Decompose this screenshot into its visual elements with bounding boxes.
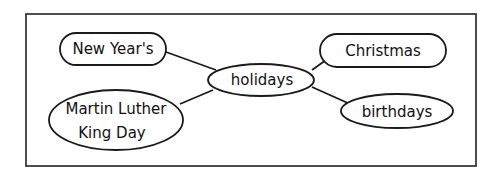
node-label: birthdays: [362, 103, 433, 121]
node-label: New Year's: [72, 40, 153, 58]
node-label: Christmas: [345, 42, 421, 60]
node-birthdays: birthdays: [341, 94, 453, 128]
node-new-years: New Year's: [60, 33, 166, 65]
node-holidays-center: holidays: [208, 64, 314, 96]
node-label-line2: King Day: [78, 124, 146, 142]
concept-web-diagram: New Year's Martin Luther King Day holida…: [0, 0, 501, 173]
node-label: holidays: [231, 71, 294, 89]
node-martin-luther-king-day: Martin Luther King Day: [49, 90, 183, 150]
node-label-line1: Martin Luther: [65, 100, 167, 118]
node-christmas: Christmas: [320, 34, 446, 67]
